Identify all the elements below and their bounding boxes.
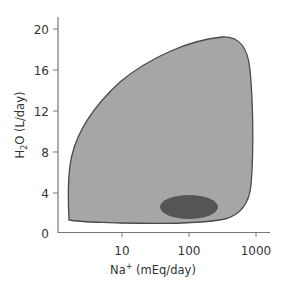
y-tick-label-4: 4 bbox=[41, 187, 49, 201]
y-axis-label: H2O (L/day) bbox=[13, 92, 29, 159]
x-tick-label-1000: 1000 bbox=[241, 244, 272, 258]
tolerance-region bbox=[68, 37, 253, 224]
chart-svg: 20 16 12 8 4 0 10 100 1000 Na+ (mEq/day)… bbox=[0, 0, 282, 287]
y-tick-label-8: 8 bbox=[41, 146, 49, 160]
y-ticks bbox=[53, 29, 58, 193]
y-tick-label-20: 20 bbox=[34, 23, 49, 37]
x-axis-label: Na+ (mEq/day) bbox=[110, 262, 196, 277]
x-tick-label-10: 10 bbox=[114, 244, 129, 258]
y-tick-label-12: 12 bbox=[34, 105, 49, 119]
y-tick-label-16: 16 bbox=[34, 64, 49, 78]
typical-intake-ellipse bbox=[160, 195, 218, 219]
y-tick-label-0: 0 bbox=[41, 227, 49, 241]
x-tick-label-100: 100 bbox=[178, 244, 201, 258]
